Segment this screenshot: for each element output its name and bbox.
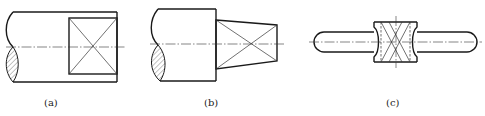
taper-diagonal-1 xyxy=(216,20,277,61)
shaft-break-outline xyxy=(151,9,158,45)
panel-b: (b) xyxy=(150,9,285,108)
tapered-square xyxy=(216,20,277,69)
caption-c: (c) xyxy=(386,97,400,108)
caption-b: (b) xyxy=(204,97,218,108)
panel-a: (a) xyxy=(6,12,125,108)
technical-drawing: (a) (b) (c) xyxy=(0,0,485,116)
caption-a: (a) xyxy=(44,97,58,108)
section-hatch xyxy=(151,45,165,81)
panel-c: (c) xyxy=(309,16,482,108)
section-hatch xyxy=(6,47,18,82)
shaft-break-outline xyxy=(6,12,13,47)
